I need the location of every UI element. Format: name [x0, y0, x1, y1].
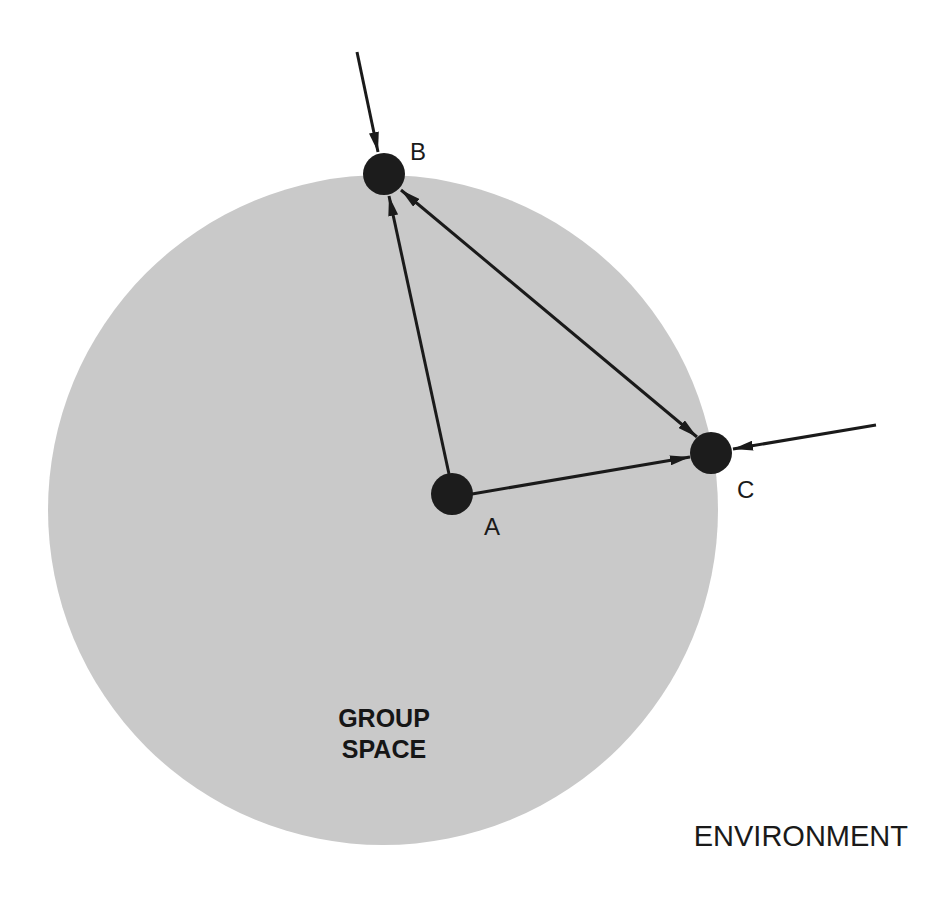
node-c: [690, 432, 732, 474]
group-space-label-line1: GROUP: [338, 704, 430, 732]
edge-environment-to-c: [733, 425, 876, 449]
group-space-label-line2: SPACE: [342, 735, 426, 763]
group-space-diagram: A B C GROUP SPACE ENVIRONMENT: [0, 0, 946, 900]
environment-label: ENVIRONMENT: [694, 820, 909, 852]
node-a-label: A: [484, 513, 500, 540]
edge-environment-to-b: [357, 52, 378, 152]
node-c-label: C: [737, 476, 754, 503]
node-a: [431, 473, 473, 515]
node-b-label: B: [410, 138, 426, 165]
node-b: [363, 153, 405, 195]
